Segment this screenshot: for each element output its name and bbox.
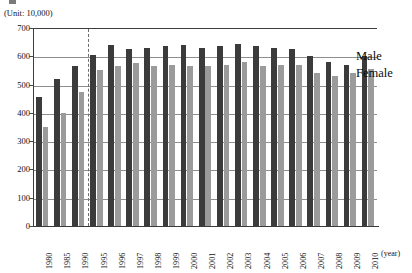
bar-series-container [33, 28, 377, 226]
y-axis-tick-mark [29, 28, 33, 29]
x-axis-tick-label: 1997 [136, 253, 145, 269]
series-annotation-male: Male [356, 49, 382, 64]
bar-group [90, 28, 102, 226]
bar-female-1996 [115, 66, 121, 226]
y-axis-tick-mark [29, 113, 33, 114]
y-axis-tick-mark [29, 198, 33, 199]
x-axis-tick-label: 2006 [299, 253, 308, 269]
bar-group [253, 28, 265, 226]
bar-male-1995 [90, 55, 96, 226]
bar-female-2003 [242, 62, 248, 226]
y-axis-tick-mark [29, 226, 33, 227]
bar-male-2005 [271, 48, 277, 226]
series-annotation-female: Female [356, 66, 393, 81]
bar-female-2001 [205, 66, 211, 226]
x-axis-tick-labels: 1980198519901995199619971998199920002001… [33, 227, 377, 273]
x-axis-tick-label: 2003 [244, 253, 253, 269]
bar-group [271, 28, 283, 226]
bar-female-2004 [260, 66, 266, 226]
bar-group [126, 28, 138, 226]
bar-male-2010 [362, 56, 368, 226]
bar-female-1997 [133, 63, 139, 226]
x-axis-tick-label: 2004 [263, 253, 272, 269]
x-axis-tick-label: 2002 [226, 253, 235, 269]
bar-group [144, 28, 156, 226]
bar-group [344, 28, 356, 226]
bar-male-2002 [217, 46, 223, 226]
bar-group [181, 28, 193, 226]
bar-group [235, 28, 247, 226]
bar-female-2007 [314, 73, 320, 226]
bar-female-2005 [278, 65, 284, 226]
x-axis-tick-label: 1996 [118, 253, 127, 269]
x-axis-tick-label: 1985 [63, 253, 72, 269]
bar-group [199, 28, 211, 226]
bar-female-1990 [79, 92, 85, 226]
bar-group [307, 28, 319, 226]
y-axis-tick-mark [29, 141, 33, 142]
bar-male-2001 [199, 48, 205, 226]
bar-female-1998 [151, 66, 157, 226]
bar-male-1998 [144, 48, 150, 226]
bar-group [36, 28, 48, 226]
bar-group [72, 28, 84, 226]
bar-male-2009 [344, 65, 350, 226]
bar-male-1997 [126, 49, 132, 226]
bar-female-1995 [97, 70, 103, 226]
x-axis-tick-label: 1990 [81, 253, 90, 269]
bar-male-1990 [72, 66, 78, 226]
bar-female-2010 [368, 69, 374, 226]
bar-group [108, 28, 120, 226]
bar-male-2007 [307, 56, 313, 226]
bar-male-1980 [36, 97, 42, 226]
x-axis-tick-label: 1980 [45, 253, 54, 269]
x-axis-tick-label: 2009 [353, 253, 362, 269]
bar-female-2009 [350, 73, 356, 226]
bar-male-1985 [54, 79, 60, 226]
x-axis-tick-label: 1995 [100, 253, 109, 269]
x-axis-tick-label: 2001 [208, 253, 217, 269]
y-axis: 0100200300400500600700 [0, 28, 30, 226]
bar-female-1999 [169, 65, 175, 226]
y-axis-tick-mark [29, 169, 33, 170]
bar-female-1985 [61, 113, 67, 226]
x-axis-tick-label: 2000 [190, 253, 199, 269]
y-axis-unit-caption: (Unit: 10,000) [4, 8, 53, 18]
bar-group [289, 28, 301, 226]
bar-female-2006 [296, 65, 302, 226]
bar-male-2003 [235, 44, 241, 226]
bar-male-2004 [253, 46, 259, 226]
bar-group [163, 28, 175, 226]
page-top-artifact [3, 0, 63, 6]
bar-female-2008 [332, 76, 338, 226]
bar-male-2006 [289, 49, 295, 226]
x-axis-tick-label: 2008 [335, 253, 344, 269]
bar-group [217, 28, 229, 226]
x-axis-title: (year) [381, 249, 400, 258]
bar-group [326, 28, 338, 226]
x-axis-tick-label: 1999 [172, 253, 181, 269]
x-axis-tick-label: 2007 [317, 253, 326, 269]
bar-male-2000 [181, 45, 187, 226]
y-axis-tick-mark [29, 56, 33, 57]
bar-male-1996 [108, 45, 114, 226]
bar-female-2000 [187, 66, 193, 226]
bar-male-1999 [163, 46, 169, 226]
scan-artifact-icon [9, 0, 16, 4]
x-axis-tick-label: 2005 [281, 253, 290, 269]
bar-group [54, 28, 66, 226]
x-axis-tick-label: 1998 [154, 253, 163, 269]
y-axis-tick-mark [29, 85, 33, 86]
bar-female-1980 [43, 127, 49, 226]
chart-page: (Unit: 10,000) 0100200300400500600700 19… [0, 0, 412, 273]
x-axis-tick-label: 2010 [371, 253, 380, 269]
bar-male-2008 [326, 62, 332, 226]
bar-female-2002 [224, 65, 230, 226]
